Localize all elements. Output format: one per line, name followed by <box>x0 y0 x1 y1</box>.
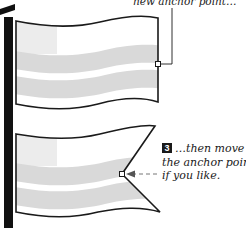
bottom-caption: 3…then move the anchor point, if you lik… <box>162 142 246 183</box>
bottom-caption-line-2: the anchor point, <box>162 156 246 170</box>
top-caption: new anchor point… <box>133 0 237 9</box>
bottom-caption-line-1: 3…then move <box>162 142 246 156</box>
anchor-point-top <box>156 62 161 67</box>
top-flag <box>10 8 172 110</box>
bottom-flag-fill <box>10 120 166 220</box>
caption-line-text: …then move <box>175 142 244 155</box>
flag-illustration <box>0 0 246 228</box>
arrow-head <box>126 171 135 178</box>
bottom-flag <box>10 120 166 220</box>
top-flag-fill <box>10 15 165 110</box>
anchor-point-bottom <box>120 172 125 177</box>
bottom-caption-line-3: if you like. <box>162 169 246 183</box>
step-number-badge: 3 <box>162 143 172 153</box>
flag-pole <box>0 4 15 228</box>
leader-line <box>161 8 172 64</box>
top-caption-text: new anchor point… <box>133 0 237 7</box>
